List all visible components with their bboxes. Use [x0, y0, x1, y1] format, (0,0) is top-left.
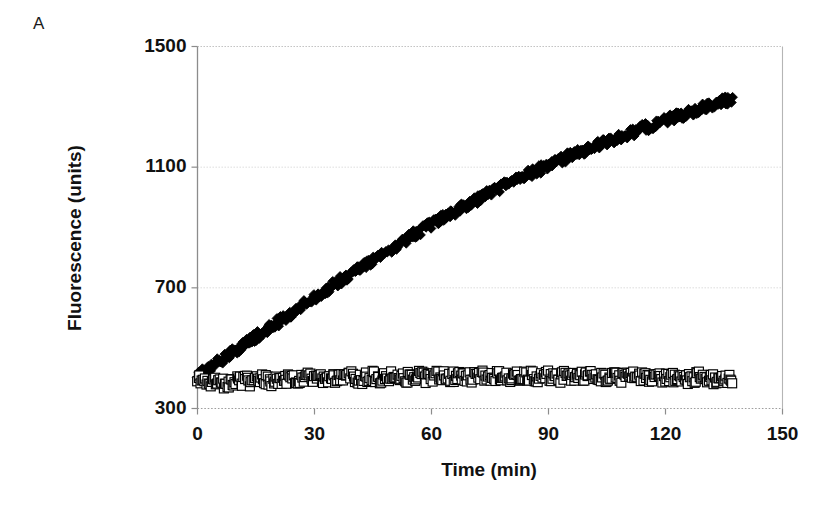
data-series-group [192, 92, 737, 393]
x-tick-label: 90 [509, 423, 589, 445]
plot-frame [198, 47, 783, 409]
data-point [728, 379, 737, 388]
x-tick-label: 150 [743, 423, 823, 445]
y-axis-title: Fluorescence (units) [64, 108, 86, 368]
series-open-squares [193, 366, 737, 393]
x-tick-label: 0 [158, 423, 238, 445]
y-tick-label: 700 [155, 276, 187, 298]
y-tick-label: 300 [155, 397, 187, 419]
x-axis-title: Time (min) [289, 459, 689, 481]
figure-panel-a: A Fluorescence (units) Time (min) 300700… [0, 0, 840, 510]
y-tick-label: 1500 [144, 35, 186, 57]
x-tick-label: 120 [626, 423, 706, 445]
series-filled-diamonds [192, 92, 737, 383]
x-tick-label: 30 [275, 423, 355, 445]
y-tick-label: 1100 [145, 155, 186, 177]
x-tick-label: 60 [392, 423, 472, 445]
axis-ticks [192, 47, 783, 415]
